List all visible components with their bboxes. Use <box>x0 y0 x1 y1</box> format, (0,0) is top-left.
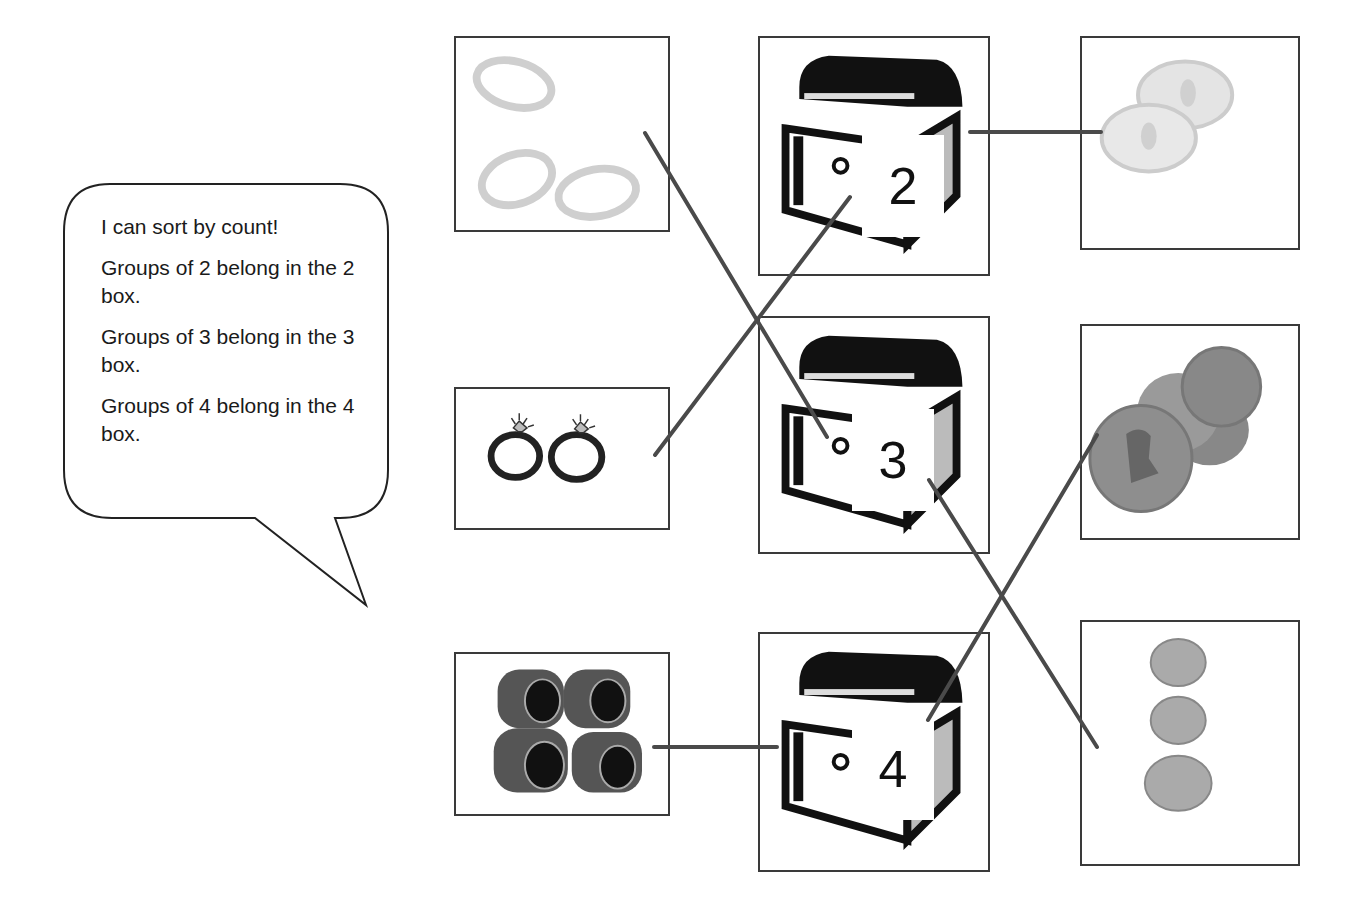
card-three-coins[interactable] <box>1080 620 1300 866</box>
card-four-copper-coins[interactable] <box>1080 324 1300 540</box>
chest-4[interactable]: 4 <box>758 632 990 872</box>
silver-coins-icon <box>1082 38 1298 248</box>
card-four-class-rings[interactable] <box>454 652 670 816</box>
diamond-rings-icon <box>456 389 668 528</box>
card-two-silver-coins[interactable] <box>1080 36 1300 250</box>
chest-number-label: 4 <box>852 718 934 820</box>
class-rings-icon <box>456 654 668 814</box>
chest-3[interactable]: 3 <box>758 316 990 554</box>
copper-coins-icon <box>1082 326 1298 538</box>
bubble-line-4: Groups of 4 belong in the 4 box. <box>101 392 371 448</box>
card-three-rings[interactable] <box>454 36 670 232</box>
bubble-line-1: I can sort by count! <box>101 213 371 241</box>
card-two-diamond-rings[interactable] <box>454 387 670 530</box>
chest-2[interactable]: 2 <box>758 36 990 276</box>
bubble-line-3: Groups of 3 belong in the 3 box. <box>101 323 371 379</box>
chest-number-label: 3 <box>852 409 934 511</box>
nickels-icon <box>1082 622 1298 864</box>
speech-bubble-text: I can sort by count! Groups of 2 belong … <box>101 213 371 461</box>
bubble-line-2: Groups of 2 belong in the 2 box. <box>101 254 371 310</box>
gold-rings-icon <box>456 38 668 230</box>
chest-number-label: 2 <box>862 135 944 237</box>
